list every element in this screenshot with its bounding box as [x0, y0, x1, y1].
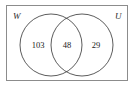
venn-diagram: W U 103 48 29	[0, 0, 134, 87]
venn-diagram-canvas: W U 103 48 29	[0, 0, 134, 87]
set-label-u: U	[115, 11, 122, 21]
region-count-w-only: 103	[32, 40, 45, 50]
region-count-u-only: 29	[92, 40, 101, 50]
region-count-intersection: 48	[63, 40, 72, 50]
